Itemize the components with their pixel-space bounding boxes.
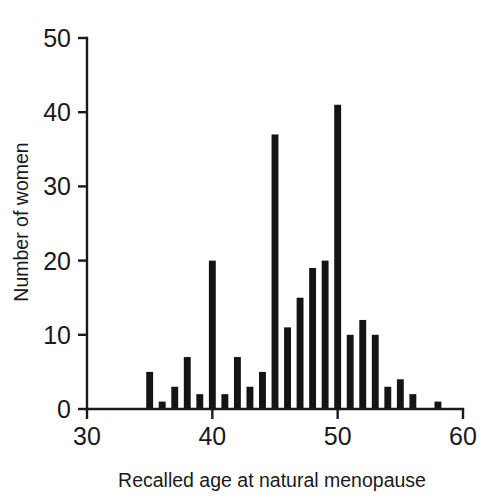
histogram-bar [297, 298, 304, 409]
histogram-bar [196, 394, 203, 409]
y-tick-label: 40 [43, 98, 71, 126]
histogram-bar [322, 261, 329, 409]
y-axis-title: Number of women [10, 142, 32, 301]
bars-group [146, 105, 441, 409]
histogram-bar [359, 320, 366, 409]
histogram-bar [184, 357, 191, 409]
x-tick-label: 60 [449, 422, 477, 450]
x-axis-title: Recalled age at natural menopause [118, 469, 426, 491]
histogram-bar [209, 261, 216, 409]
histogram-bar [409, 394, 416, 409]
chart-canvas: 01020304050 30405060 Recalled age at nat… [0, 0, 485, 501]
histogram-bar [384, 387, 391, 409]
y-tick-label: 10 [43, 321, 71, 349]
histogram-bar [334, 105, 341, 409]
histogram-bar [347, 335, 354, 409]
histogram-bar [234, 357, 241, 409]
histogram-bar [246, 387, 253, 409]
y-axis-ticks: 01020304050 [43, 24, 87, 423]
x-axis-ticks: 30405060 [73, 409, 477, 450]
x-tick-label: 40 [198, 422, 226, 450]
histogram-bar [146, 372, 153, 409]
histogram-bar [272, 134, 279, 409]
histogram-bar [309, 268, 316, 409]
histogram-bar [171, 387, 178, 409]
y-tick-label: 20 [43, 247, 71, 275]
y-tick-label: 0 [57, 395, 71, 423]
x-tick-label: 30 [73, 422, 101, 450]
histogram-bar [221, 394, 228, 409]
histogram-bar [372, 335, 379, 409]
histogram-bar [397, 379, 404, 409]
x-tick-label: 50 [324, 422, 352, 450]
y-tick-label: 30 [43, 172, 71, 200]
histogram-bar [259, 372, 266, 409]
histogram-bar [284, 327, 291, 409]
histogram-figure: 01020304050 30405060 Recalled age at nat… [0, 0, 485, 501]
y-tick-label: 50 [43, 24, 71, 52]
